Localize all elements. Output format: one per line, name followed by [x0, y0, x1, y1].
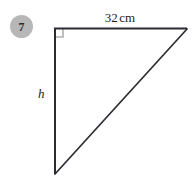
top-side-label: 32cm	[94, 11, 146, 24]
question-number-badge: 7	[10, 15, 33, 38]
geometry-figure: 7 32cm h	[0, 0, 195, 178]
top-side-value: 32	[105, 10, 118, 25]
top-side-unit: cm	[119, 10, 135, 25]
question-number-text: 7	[19, 21, 25, 33]
triangle-side-hypotenuse	[55, 29, 187, 174]
left-side-label: h	[38, 87, 45, 100]
